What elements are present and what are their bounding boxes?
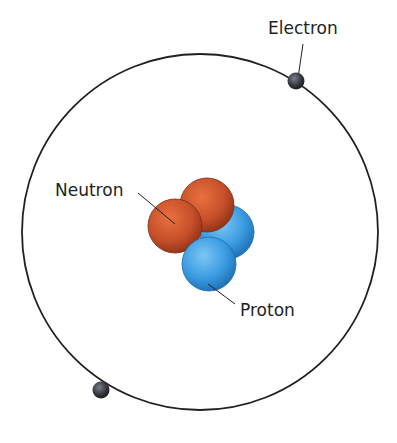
proton-front (182, 237, 236, 291)
electron-leader (298, 44, 303, 78)
electron-top-right (288, 73, 305, 90)
electron-label: Electron (268, 18, 338, 38)
neutron-label: Neutron (55, 180, 123, 200)
electron-bottom-left (93, 382, 110, 399)
proton-label: Proton (240, 300, 295, 320)
atom-diagram (0, 0, 397, 443)
